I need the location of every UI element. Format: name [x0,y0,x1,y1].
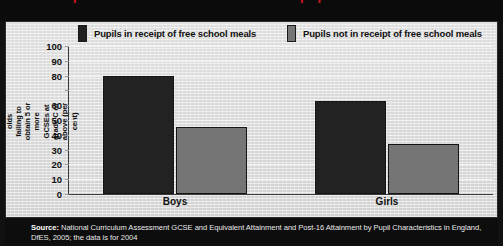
y-axis-tick [65,150,69,151]
y-axis-tick [65,179,69,180]
y-axis-tick-label: 80 [51,70,62,81]
figure-title-band: This compares with less than half of oth… [0,0,503,21]
gridline [69,61,493,62]
y-axis-tick [65,90,69,91]
legend-label: Pupils in receipt of free school meals [94,28,256,39]
y-axis-tick [65,105,69,106]
y-axis-tick [65,61,69,62]
y-axis-tick-label: 10 [51,174,62,185]
y-axis-tick-label: 60 [51,100,62,111]
bar-girls-series-1 [315,101,386,194]
y-axis-tick-label: 0 [57,189,62,200]
y-axis-tick-label: 90 [51,55,62,66]
bar-boys-series-2 [176,127,247,194]
source-text: National Curriculum Assessment GCSE and … [31,223,481,242]
legend-label: Pupils not in receipt of free school mea… [303,28,482,39]
y-axis-tick [65,164,69,165]
y-axis-tick-label: 20 [51,159,62,170]
figure-root: This compares with less than half of oth… [0,0,503,246]
y-axis-tick [65,120,69,121]
y-axis-tick [65,76,69,77]
y-axis-tick-label: 30 [51,144,62,155]
y-axis-tick [65,135,69,136]
x-axis-category-label: Girls [376,196,399,207]
y-axis-tick [65,194,69,195]
source-label: Source: [31,223,59,232]
page-title: This compares with less than half of oth… [10,0,346,3]
y-axis-tick [65,46,69,47]
legend-swatch-icon [287,25,296,42]
plot-area: 10090806050403020100BoysGirls [68,46,493,195]
chart-frame: Pupils in receipt of free school meals P… [5,21,498,218]
x-axis-category-label: Boys [163,196,187,207]
bar-boys-series-1 [103,76,174,194]
y-axis-tick-label: 100 [46,41,62,52]
bar-girls-series-2 [388,144,459,194]
y-axis-tick-label: 50 [51,115,62,126]
y-axis-tick-label: 40 [51,129,62,140]
legend-item-free-school-meals: Pupils in receipt of free school meals [78,25,256,42]
legend-item-not-free-school-meals: Pupils not in receipt of free school mea… [287,25,482,42]
gridline [69,46,493,47]
legend-swatch-icon [78,25,87,42]
source-note: Source: National Curriculum Assessment G… [5,219,498,245]
y-axis-title: Proportion of 16-year-olds failing to ob… [22,48,44,194]
chart-legend: Pupils in receipt of free school meals P… [6,24,498,44]
